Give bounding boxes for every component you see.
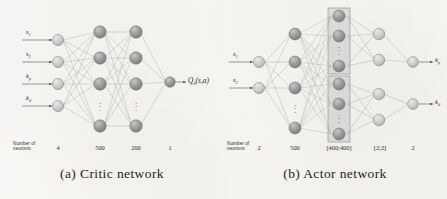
actor-hidden1-ellipsis: ... <box>291 102 299 112</box>
actor-output-label-1: kd <box>435 98 440 107</box>
critic-layer-count-1: 500 <box>90 144 110 151</box>
critic-input-label-3: kd <box>26 94 31 103</box>
actor-network-panel: s1 s2 kp kd ... ... ... Number of neuron… <box>223 0 447 199</box>
critic-hidden1-ellipsis: ... <box>96 100 104 110</box>
actor-edges-split-head <box>347 16 375 134</box>
actor-layer-count-0: 2 <box>251 144 267 151</box>
actor-output-layer-nodes <box>408 57 419 110</box>
actor-neurons-legend-line2: neurons: <box>227 146 249 151</box>
actor-edges-input-hidden1 <box>265 34 291 128</box>
actor-hidden1-layer-nodes <box>289 28 301 134</box>
critic-network-caption: (a) Critic network <box>0 166 224 182</box>
actor-split-lower-ellipsis: ... <box>335 112 343 122</box>
critic-network-panel: s1 s2 kp kd Qθ(s,a) ... ... Number of ne… <box>0 0 224 199</box>
actor-layer-count-2: [400;400] <box>315 144 363 151</box>
critic-neurons-legend-line2: neurons: <box>13 146 35 151</box>
critic-input-label-0: s1 <box>26 28 31 37</box>
critic-edges-hidden2-output <box>140 32 166 126</box>
critic-neurons-legend: Number of neurons: <box>13 141 35 152</box>
actor-layer-count-4: 2 <box>405 144 421 151</box>
critic-edges-input-hidden1 <box>63 32 96 126</box>
critic-hidden2-ellipsis: ... <box>132 100 140 110</box>
actor-neurons-legend: Number of neurons: <box>227 141 249 152</box>
actor-output-arrows <box>419 62 433 104</box>
actor-network-caption: (b) Actor network <box>223 166 447 182</box>
critic-input-label-1: s2 <box>26 50 31 59</box>
actor-input-label-1: s2 <box>233 76 238 85</box>
neural-network-figure: s1 s2 kp kd Qθ(s,a) ... ... Number of ne… <box>0 0 447 199</box>
critic-hidden1-layer-nodes <box>94 26 106 132</box>
actor-split-upper-ellipsis: ... <box>335 44 343 54</box>
critic-edges-hidden1-hidden2 <box>104 32 132 126</box>
critic-output-label: Qθ(s,a) <box>188 76 209 86</box>
critic-layer-count-0: 4 <box>48 144 68 151</box>
critic-input-layer-nodes <box>52 34 63 111</box>
actor-edges-head-output <box>383 34 409 120</box>
critic-hidden2-layer-nodes <box>130 26 142 132</box>
actor-split-head-layer-nodes <box>373 28 385 126</box>
actor-input-label-0: s1 <box>233 50 238 59</box>
critic-layer-count-2: 200 <box>126 144 146 151</box>
actor-input-layer-nodes <box>253 56 264 93</box>
actor-layer-count-1: 500 <box>286 144 304 151</box>
actor-edges-hidden1-split <box>299 16 331 134</box>
critic-input-label-2: kp <box>26 72 31 81</box>
actor-output-label-0: kp <box>435 56 440 65</box>
actor-layer-count-3: [2;2] <box>365 144 395 151</box>
actor-network-graph <box>223 0 447 160</box>
critic-output-layer-node <box>165 77 175 87</box>
critic-layer-count-3: 1 <box>160 144 180 151</box>
